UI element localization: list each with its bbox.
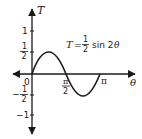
svg-text:T: T [66,39,74,50]
y-tick-label-neg-half-den: 2 [22,95,27,104]
x-tick-label-pi-half-den: 2 [63,87,68,96]
y-tick-label-neg-half-sign: − [12,89,20,99]
svg-text:1: 1 [83,35,88,44]
graph-canvas: T θ 0 1 1 2 − 1 2 −1 π 2 π T = 1 2 sin 2… [0,0,142,139]
y-tick-label-1: 1 [22,26,28,36]
svg-text:sin 2: sin 2 [92,40,113,50]
x-axis-label: θ [130,77,136,88]
y-tick-label-half-den: 2 [22,52,27,61]
y-axis-label: T [37,4,46,17]
svg-text:=: = [74,40,82,50]
y-tick-label-neg-half-num: 1 [22,85,27,94]
y-tick-label-half-num: 1 [22,42,27,51]
svg-text:θ: θ [114,40,120,50]
y-tick-label-neg-1: −1 [16,110,29,120]
x-tick-label-pi-half-num: π [63,77,68,86]
equation-label: T = 1 2 sin 2 θ [66,35,120,54]
x-tick-label-pi: π [101,76,107,86]
svg-text:2: 2 [83,45,88,54]
